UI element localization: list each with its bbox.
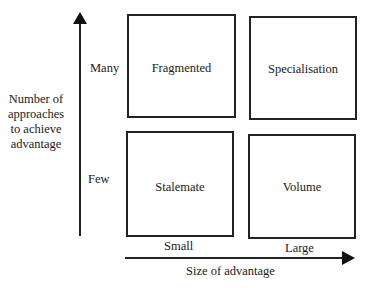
y-axis-label: Number of approaches to achieve advantag… (4, 92, 68, 152)
quadrant-label-stalemate: Stalemate (128, 180, 232, 195)
quadrant-bottom-right: Volume (248, 134, 356, 239)
y-axis-label-line-2: approaches (4, 107, 68, 122)
y-axis-arrow-icon (73, 12, 87, 24)
x-axis-arrow-icon (342, 251, 355, 265)
quadrant-label-fragmented: Fragmented (129, 61, 234, 76)
y-axis-line (79, 22, 81, 236)
y-tick-many: Many (90, 61, 119, 76)
y-axis-label-line-4: advantage (4, 137, 68, 152)
y-axis-label-line-3: to achieve (4, 122, 68, 137)
quadrant-label-volume: Volume (250, 180, 354, 195)
x-tick-large: Large (285, 241, 314, 256)
quadrant-top-left: Fragmented (127, 14, 236, 118)
x-tick-small: Small (164, 239, 193, 254)
quadrant-top-right: Specialisation (249, 16, 357, 120)
x-axis-line (125, 257, 343, 259)
quadrant-bottom-left: Stalemate (126, 131, 234, 237)
quadrant-label-specialisation: Specialisation (251, 62, 355, 77)
x-axis-label: Size of advantage (186, 264, 275, 279)
y-axis-label-line-1: Number of (4, 92, 68, 107)
y-tick-few: Few (88, 172, 110, 187)
